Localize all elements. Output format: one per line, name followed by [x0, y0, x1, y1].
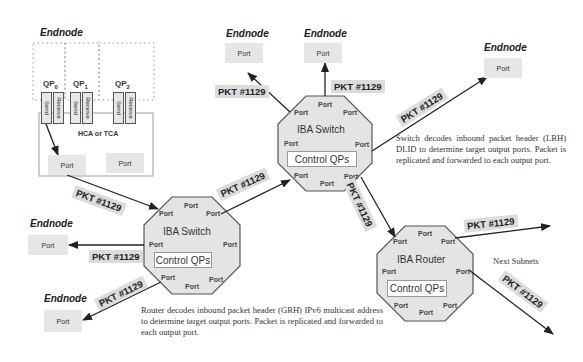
qp2-receive-queue: Receive [125, 92, 136, 124]
switch-left-port: Port [161, 274, 175, 281]
switch-top-port: Port [343, 109, 357, 116]
qp2-label: QP2 [115, 79, 130, 90]
switch-top-control-qps: Control QPs [287, 151, 357, 167]
qp1-label: QP1 [73, 79, 88, 90]
router-port: Port [419, 309, 433, 316]
switch-top-port: Port [318, 101, 332, 108]
packet-label: PKT #1129 [215, 85, 269, 98]
packet-label: PKT #1129 [89, 250, 143, 263]
switch-top-port: Port [320, 180, 334, 187]
switch-top-port: Port [294, 109, 308, 116]
next-subnets-label: Next Subnets [493, 256, 539, 266]
router-port: Port [382, 268, 396, 275]
switch-left-port: Port [149, 241, 163, 248]
switch-left-port: Port [184, 202, 198, 209]
router-description: Router decodes inbound packet header (GR… [141, 305, 383, 338]
switch-left-control-qps: Control QPs [154, 252, 212, 268]
router-port: Port [456, 268, 470, 275]
endnode-title-left: Endnode [30, 218, 73, 229]
endnode-title-top-a: Endnode [226, 28, 269, 39]
switch-left-port: Port [206, 210, 220, 217]
switch-left-port: Port [209, 276, 223, 283]
router-port: Port [394, 302, 408, 309]
endnode-title-top-b: Endnode [304, 28, 347, 39]
switch-top-port: Port [355, 141, 369, 148]
endnode-title: Endnode [40, 27, 83, 38]
switch-top-port: Port [294, 172, 308, 179]
switch-description: Switch decodes inbound packet header (LR… [396, 133, 566, 166]
qp2-send-queue: Send [113, 92, 124, 124]
qp0-send-queue: Send [41, 92, 52, 124]
qp1-send-queue: Send [70, 92, 81, 124]
switch-top-port: Port [284, 140, 298, 147]
hca-label: HCA or TCA [78, 130, 118, 137]
switch-left-port: Port [223, 241, 237, 248]
endnode-port-top-b: Port [304, 43, 342, 63]
hca-port-2: Port [106, 153, 144, 173]
hca-port-1: Port [48, 155, 86, 175]
switch-top-label: IBA Switch [297, 124, 345, 135]
router-port: Port [441, 238, 455, 245]
router-label: IBA Router [397, 254, 445, 265]
router-port: Port [443, 302, 457, 309]
endnode-title-right: Endnode [484, 42, 527, 53]
router-port: Port [393, 238, 407, 245]
switch-left-port: Port [185, 283, 199, 290]
qp1-receive-queue: Receive [82, 92, 93, 124]
endnode-title-bottom-left: Endnode [44, 293, 87, 304]
endnode-port-right: Port [484, 58, 522, 78]
endnode-port-bottom-left: Port [44, 310, 82, 332]
qp0-receive-queue: Receive [53, 92, 64, 124]
endnode-port-top-a: Port [225, 43, 263, 63]
router-control-qps: Control QPs [387, 280, 447, 297]
packet-label: PKT #1129 [331, 80, 385, 93]
switch-left-label: IBA Switch [163, 226, 211, 237]
endnode-port-left: Port [28, 235, 68, 255]
switch-left-port: Port [159, 210, 173, 217]
router-port: Port [418, 230, 432, 237]
qp0-label: QP0 [43, 79, 58, 90]
